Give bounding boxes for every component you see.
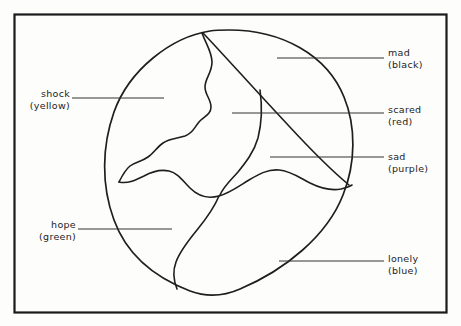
label-shock-color: (yellow) <box>0 100 70 112</box>
divider-diagonal <box>203 33 349 185</box>
label-scared-word: scared <box>388 104 421 116</box>
emotion-circle <box>105 30 353 295</box>
label-mad-word: mad <box>388 47 423 59</box>
label-hope: hope (green) <box>0 219 76 242</box>
divider-scared-lower <box>220 90 261 195</box>
label-lonely: lonely (blue) <box>388 253 418 276</box>
diagram-page: mad (black) scared (red) sad (purple) lo… <box>0 0 461 326</box>
label-lonely-color: (blue) <box>388 265 418 277</box>
label-sad: sad (purple) <box>388 151 428 174</box>
label-sad-word: sad <box>388 151 428 163</box>
label-scared: scared (red) <box>388 104 421 127</box>
divider-shock-scared <box>119 33 212 182</box>
label-mad: mad (black) <box>388 47 423 70</box>
divider-hope-lonely <box>174 196 219 289</box>
label-scared-color: (red) <box>388 116 421 128</box>
label-lonely-word: lonely <box>388 253 418 265</box>
label-hope-color: (green) <box>0 231 76 243</box>
label-shock: shock (yellow) <box>0 88 70 111</box>
page-frame <box>15 15 447 313</box>
label-hope-word: hope <box>0 219 76 231</box>
label-sad-color: (purple) <box>388 163 428 175</box>
label-mad-color: (black) <box>388 59 423 71</box>
label-shock-word: shock <box>0 88 70 100</box>
